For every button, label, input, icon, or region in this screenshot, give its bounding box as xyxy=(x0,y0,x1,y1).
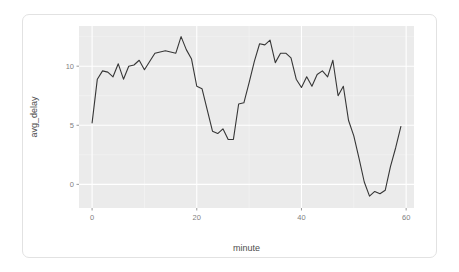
screenshot-root: 0510 0204060 minute avg_delay xyxy=(0,0,459,272)
x-axis-title: minute xyxy=(233,243,260,253)
y-axis-title: avg_delay xyxy=(29,96,39,138)
y-axis-ticks: 0510 xyxy=(66,62,79,189)
x-tick-label: 0 xyxy=(90,213,94,222)
ggplot-figure: 0510 0204060 minute avg_delay xyxy=(23,15,438,259)
y-tick-label: 0 xyxy=(70,180,74,189)
y-tick-label: 10 xyxy=(66,62,74,71)
x-tick-label: 20 xyxy=(193,213,201,222)
x-tick-label: 40 xyxy=(297,213,305,222)
x-tick-label: 60 xyxy=(402,213,410,222)
x-axis-ticks: 0204060 xyxy=(90,208,410,222)
plot-card: 0510 0204060 minute avg_delay xyxy=(22,14,437,258)
y-tick-label: 5 xyxy=(70,121,74,130)
chart-canvas: 0510 0204060 minute avg_delay xyxy=(23,15,438,259)
